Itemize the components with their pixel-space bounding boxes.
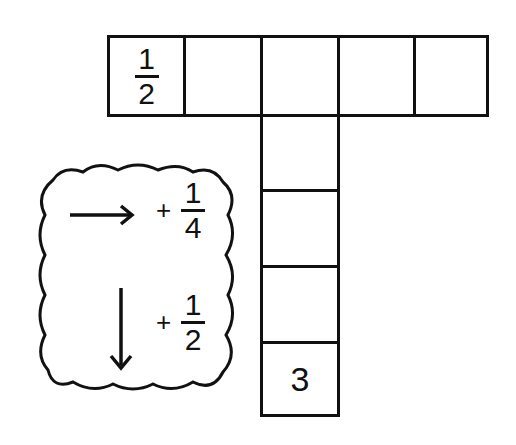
plus-sign: + [156,195,171,226]
rule-down: + 1 2 [146,290,205,355]
denominator: 2 [185,325,202,355]
fraction-one-half: 1 2 [181,290,205,355]
rule-cloud [33,160,238,395]
cell-h4[interactable] [337,35,416,117]
cell-h2[interactable] [183,35,263,117]
cell-value-three: 3 [291,360,310,399]
cell-h5[interactable] [413,35,489,117]
denominator: 2 [138,79,155,109]
denominator: 4 [185,213,202,243]
cell-h3[interactable] [260,35,340,117]
cell-v2[interactable] [260,189,340,268]
fraction-one-quarter: 1 4 [181,178,205,243]
cell-v3[interactable] [260,265,340,344]
cell-v4: 3 [260,341,340,417]
rule-across: + 1 4 [146,178,205,243]
numerator: 1 [138,44,155,74]
cell-v1[interactable] [260,114,340,192]
numerator: 1 [185,290,202,320]
fraction-one-half: 1 2 [135,44,159,109]
numerator: 1 [185,178,202,208]
plus-sign: + [156,307,171,338]
cell-h1: 1 2 [107,35,186,117]
